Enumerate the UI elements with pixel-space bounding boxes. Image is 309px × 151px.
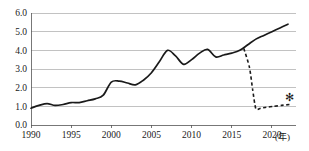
x-axis-tick-labels: 1990199520002005201020152020	[22, 130, 282, 140]
y-axis-tick-label: 3.0	[15, 64, 27, 74]
y-axis-tick-labels: 0.01.02.03.04.05.06.0	[15, 8, 27, 130]
y-axis-tick-label: 6.0	[15, 8, 27, 18]
x-axis-tick-label: 1990	[22, 130, 41, 140]
y-axis-tick-label: 2.0	[15, 83, 27, 93]
y-axis-tick-label: 4.0	[15, 46, 27, 56]
dashed-data-line	[244, 48, 290, 109]
x-axis-tick-label: 1995	[62, 130, 81, 140]
chart-canvas: 0.01.02.03.04.05.06.0 199019952000200520…	[0, 0, 309, 151]
y-axis-tick-label: 0.0	[15, 120, 27, 130]
annotation-markers: ✻	[285, 91, 294, 103]
x-axis-unit-label: (年)	[275, 131, 290, 142]
x-axis-tick-label: 2005	[142, 130, 161, 140]
x-axis-tick-label: 2000	[102, 130, 121, 140]
y-axis-tick-label: 1.0	[15, 102, 27, 112]
gridlines-group	[31, 13, 296, 106]
asterisk-marker: ✻	[285, 91, 294, 103]
x-axis-tick-label: 2010	[182, 130, 201, 140]
x-axis-tick-marks	[31, 125, 272, 128]
x-axis-tick-label: 2015	[222, 130, 241, 140]
line-chart-figure: 0.01.02.03.04.05.06.0 199019952000200520…	[0, 0, 309, 151]
y-axis-tick-label: 5.0	[15, 27, 27, 37]
